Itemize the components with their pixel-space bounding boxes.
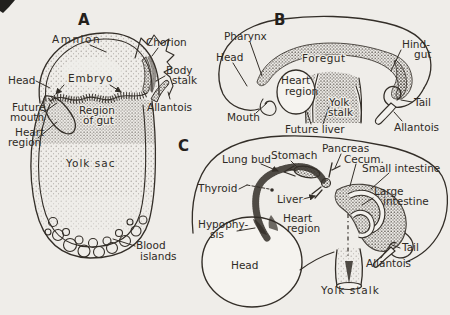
label-region-of-gut-2: of gut — [83, 114, 114, 126]
label-large-intestine-2: intestine — [383, 195, 429, 207]
label-blood-islands-2: islands — [140, 250, 177, 262]
panel-b: B Pharynx Head Foregut Hind- gut Heart r… — [216, 11, 439, 135]
label-future-liver: Future liver — [285, 123, 345, 135]
blood-island — [89, 239, 98, 248]
label-tail: Tail — [401, 241, 419, 253]
label-thyroid: Thyroid — [197, 182, 237, 194]
label-embryo: Embryo — [68, 72, 113, 84]
label-head: Head — [231, 259, 258, 271]
leader-head — [233, 63, 247, 86]
blood-island — [103, 237, 111, 245]
label-lung-bud: Lung bud — [222, 153, 271, 165]
label-hypophysis-2: sis — [210, 228, 224, 240]
leader-cecum — [350, 164, 356, 186]
leader-lung-bud — [261, 164, 278, 171]
blood-island — [116, 230, 123, 237]
label-allantois: Allantois — [147, 101, 192, 113]
label-yolk-stalk-2: stalk — [328, 106, 354, 118]
panel-a-letter: A — [78, 11, 90, 29]
label-stomach: Stomach — [271, 149, 317, 161]
label-tail: Tail — [413, 96, 431, 108]
label-allantois: Allantois — [366, 257, 411, 269]
blood-island — [75, 236, 83, 244]
leader-liver — [303, 196, 315, 199]
label-future-mouth-2: mouth — [10, 111, 44, 123]
label-small-intestine: Small intestine — [362, 162, 440, 174]
allantois-tube — [375, 103, 396, 124]
leader-pharynx — [250, 42, 262, 76]
label-head: Head — [8, 74, 35, 86]
trunk-underside — [300, 252, 334, 270]
panel-c-letter: C — [178, 137, 189, 155]
label-head: Head — [216, 51, 243, 63]
label-amnion: Amnion — [52, 33, 101, 45]
label-yolk-sac: Yolk sac — [65, 157, 115, 169]
label-yolk-stalk: Yolk stalk — [320, 284, 380, 296]
pancreas-buds — [329, 163, 340, 177]
stomach-shape — [293, 164, 321, 179]
leader-tail — [401, 100, 412, 102]
label-foregut: Foregut — [302, 52, 346, 64]
label-body-stalk-2: stalk — [172, 74, 198, 86]
yolk-shading-mid — [27, 144, 159, 196]
thyroid-dot — [270, 188, 274, 192]
label-heart-region-2: region — [8, 136, 41, 148]
leader-allantois — [394, 112, 402, 121]
yolk-stalk-wall-left — [336, 250, 338, 286]
embryology-figure-page: A Amnion Chorion Head Embryo Body stalk … — [0, 0, 450, 315]
panel-c: C Lung bud Stomach Pancreas Cecum. Small… — [178, 136, 447, 307]
label-hind-gut-2: gut — [414, 48, 431, 60]
label-liver: Liver — [277, 193, 303, 205]
leader-thyroid — [239, 185, 247, 189]
label-chorion: Chorion — [146, 36, 187, 48]
duodenum-knot — [322, 179, 331, 188]
yolk-shading-low — [27, 196, 159, 230]
label-mouth: Mouth — [227, 111, 260, 123]
yolk-stalk-wall-right — [360, 249, 362, 285]
label-heart-region-2: region — [287, 222, 320, 234]
blood-island — [94, 247, 105, 258]
panel-a: A Amnion Chorion Head Embryo Body stalk … — [8, 11, 198, 262]
scan-artifact — [0, 0, 15, 13]
label-heart-region-2: region — [285, 85, 318, 97]
leader-chorion — [152, 48, 158, 56]
embryology-figure: A Amnion Chorion Head Embryo Body stalk … — [0, 0, 450, 315]
panel-b-letter: B — [274, 11, 285, 29]
label-pharynx: Pharynx — [224, 30, 267, 42]
label-allantois: Allantois — [394, 121, 439, 133]
